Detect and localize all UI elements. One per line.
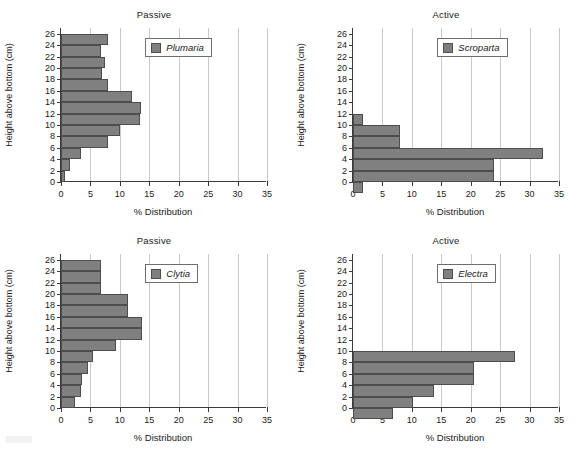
x-gridline — [500, 254, 501, 407]
panel-title: Active — [292, 235, 584, 246]
y-axis-tick-label: 14 — [45, 323, 55, 333]
bar — [353, 136, 400, 147]
bar — [61, 114, 140, 125]
y-axis-tick-label: 18 — [45, 74, 55, 84]
y-axis-tick-label: 0 — [50, 403, 55, 413]
legend-label: Scroparta — [458, 42, 499, 53]
y-axis-tick-label: 24 — [337, 40, 347, 50]
y-axis-tick — [349, 102, 353, 103]
y-axis-tick-label: 0 — [342, 177, 347, 187]
y-axis-tick-label: 16 — [337, 86, 347, 96]
y-axis-tick-label: 4 — [50, 154, 55, 164]
legend: Clytia — [145, 264, 198, 283]
y-axis-tick — [349, 271, 353, 272]
y-axis-tick-label: 0 — [342, 403, 347, 413]
legend-swatch-icon — [151, 269, 161, 279]
bar — [61, 171, 65, 182]
legend-label: Electra — [458, 268, 488, 279]
y-axis-tick-label: 12 — [45, 335, 55, 345]
x-axis-tick-label: 15 — [144, 189, 154, 199]
bar — [61, 148, 81, 159]
y-axis-label: Height above bottom (cm) — [2, 0, 16, 190]
legend: Plumaria — [145, 38, 212, 57]
x-axis-tick — [120, 181, 121, 186]
y-axis-tick-label: 8 — [342, 357, 347, 367]
y-axis-tick — [349, 328, 353, 329]
x-axis-tick — [238, 181, 239, 186]
y-axis-tick-label: 6 — [342, 143, 347, 153]
x-axis-tick — [90, 181, 91, 186]
y-axis-tick-label: 4 — [50, 380, 55, 390]
y-axis-tick-label: 8 — [342, 131, 347, 141]
y-axis-tick — [349, 305, 353, 306]
y-axis-tick-label: 24 — [45, 266, 55, 276]
y-axis-tick-label: 18 — [337, 74, 347, 84]
x-axis-tick — [500, 407, 501, 412]
chart-panel-3: ActiveHeight above bottom (cm)0510152025… — [292, 226, 584, 453]
x-gridline — [559, 28, 560, 181]
chart-panel-1: ActiveHeight above bottom (cm)0510152025… — [292, 0, 584, 226]
chart-panel-0: PassiveHeight above bottom (cm)051015202… — [0, 0, 292, 226]
y-axis-tick — [349, 260, 353, 261]
y-axis-tick — [57, 182, 61, 183]
bar — [353, 362, 474, 373]
x-axis-tick-label: 25 — [495, 189, 505, 199]
x-axis-tick-label: 35 — [262, 189, 272, 199]
bar — [61, 385, 81, 396]
x-axis-tick — [149, 181, 150, 186]
panel-title: Passive — [0, 235, 292, 246]
x-axis-tick-label: 10 — [115, 415, 125, 425]
x-axis-tick — [238, 407, 239, 412]
x-axis-tick-label: 15 — [436, 415, 446, 425]
x-gridline — [238, 254, 239, 407]
legend: Scroparta — [437, 38, 507, 57]
x-axis-tick — [149, 407, 150, 412]
bar — [353, 114, 363, 125]
x-axis-tick-label: 30 — [525, 189, 535, 199]
panel-title: Passive — [0, 9, 292, 20]
bar — [61, 294, 128, 305]
legend-swatch-icon — [443, 269, 453, 279]
panel-title-text: Passive — [137, 9, 172, 20]
x-axis-tick-label: 15 — [436, 189, 446, 199]
y-axis-tick-label: 12 — [337, 109, 347, 119]
x-axis-tick-label: 30 — [233, 415, 243, 425]
x-axis-tick-label: 20 — [466, 415, 476, 425]
legend-swatch-icon — [151, 43, 161, 53]
bar — [353, 408, 393, 419]
y-axis-tick-label: 22 — [337, 278, 347, 288]
y-axis-tick — [349, 68, 353, 69]
x-axis-tick — [530, 181, 531, 186]
bar — [353, 159, 494, 170]
y-axis-tick-label: 26 — [45, 29, 55, 39]
bar — [353, 148, 543, 159]
x-gridline — [208, 254, 209, 407]
x-axis-tick — [120, 407, 121, 412]
x-axis-label: % Distribution — [352, 206, 558, 217]
x-axis-tick-label: 35 — [554, 189, 564, 199]
x-axis-tick-label: 35 — [554, 415, 564, 425]
x-axis-tick-label: 0 — [58, 189, 63, 199]
x-axis-tick-label: 15 — [144, 415, 154, 425]
y-axis-label-text: Height above bottom (cm) — [4, 43, 14, 147]
x-axis-tick-label: 10 — [407, 189, 417, 199]
y-axis-tick-label: 26 — [337, 29, 347, 39]
y-axis-label: Height above bottom (cm) — [294, 0, 308, 190]
x-gridline — [559, 254, 560, 407]
y-axis-tick-label: 20 — [337, 289, 347, 299]
bar — [61, 260, 101, 271]
y-axis-tick-label: 16 — [45, 86, 55, 96]
bar — [353, 351, 515, 362]
x-axis-tick — [471, 407, 472, 412]
bar — [61, 125, 120, 136]
y-axis-tick-label: 14 — [337, 97, 347, 107]
y-axis-tick-label: 8 — [50, 357, 55, 367]
bar — [353, 374, 474, 385]
bar — [61, 57, 105, 68]
bar — [61, 136, 108, 147]
bar — [353, 171, 494, 182]
x-axis-tick-label: 35 — [262, 415, 272, 425]
y-axis-tick-label: 20 — [45, 289, 55, 299]
y-axis-tick-label: 18 — [45, 300, 55, 310]
y-axis-tick-label: 24 — [337, 266, 347, 276]
